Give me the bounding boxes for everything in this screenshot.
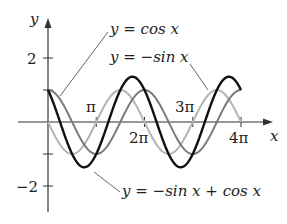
x-tick-label-2pi: 2π <box>129 129 149 147</box>
y-axis-label: y <box>29 10 39 28</box>
x-tick-label-4pi: 4π <box>229 129 249 147</box>
annotation-cos: y = cos x <box>109 20 179 38</box>
x-axis-label: x <box>270 127 279 145</box>
x-tick-label-pi: π <box>86 98 96 116</box>
y-tick-label-2: 2 <box>27 50 37 68</box>
annotation-sum: y = −sin x + cos x <box>121 182 262 200</box>
leader-cos <box>60 32 108 96</box>
annotation-negsin: y = −sin x <box>109 48 189 66</box>
x-axis-arrow-icon <box>263 119 273 126</box>
y-axis-arrow-icon <box>45 18 52 28</box>
leader-negsin <box>190 64 208 90</box>
leader-sum <box>94 172 120 192</box>
chart: y x 2 −2 π 2π 3π 4π y = cos x y = −sin x… <box>0 0 287 224</box>
x-tick-label-3pi: 3π <box>175 98 195 116</box>
y-tick-label-neg2: −2 <box>16 178 38 196</box>
